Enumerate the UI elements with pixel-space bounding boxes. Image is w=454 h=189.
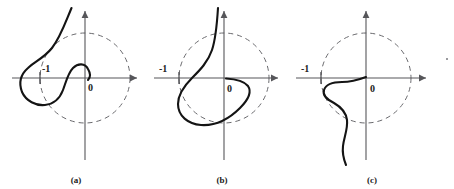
- panel-c: -1 0 (c): [296, 0, 448, 189]
- real-axis-arrow-c: [419, 75, 426, 82]
- locus-curve-b: [178, 8, 250, 125]
- critical-point-label-a: -1: [42, 63, 50, 74]
- panel-caption-c: (c): [296, 175, 448, 185]
- panel-a: -1 0 (a): [0, 0, 152, 189]
- locus-curve-c: [324, 77, 366, 165]
- origin-label-c: 0: [370, 83, 375, 94]
- origin-label-a: 0: [88, 82, 93, 93]
- nyquist-figure: -1 0 (a) -1 0 (b): [0, 0, 454, 189]
- imag-axis-arrow-c: [363, 11, 370, 18]
- imag-axis-arrow-b: [221, 11, 228, 18]
- imag-axis-arrow-a: [82, 11, 89, 18]
- panel-a-plot: -1 0: [0, 0, 152, 170]
- panel-b: -1 0 (b): [146, 0, 298, 189]
- panel-caption-b: (b): [146, 175, 298, 185]
- scan-speck: [446, 58, 448, 60]
- real-axis-arrow-b: [271, 75, 278, 82]
- panel-caption-a: (a): [0, 175, 152, 185]
- panel-b-plot: -1 0: [146, 0, 298, 170]
- panel-c-plot: -1 0: [296, 0, 454, 170]
- critical-point-label-b: -1: [159, 63, 167, 74]
- critical-point-label-c: -1: [301, 63, 309, 74]
- origin-label-b: 0: [227, 83, 232, 94]
- real-axis-arrow-a: [130, 75, 137, 82]
- locus-curve-a: [20, 8, 89, 105]
